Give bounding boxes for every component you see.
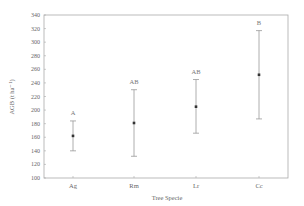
y-tick-label: 180	[31, 121, 40, 127]
x-tick-label: Rm	[129, 182, 138, 189]
plot-border	[44, 15, 288, 178]
y-tick-label: 260	[31, 66, 40, 72]
data-point-group: AB	[191, 68, 201, 134]
x-axis-title: Tree Specie	[152, 194, 183, 201]
significance-label: AB	[129, 78, 139, 85]
chart: 100120140160180200220240260280300320340 …	[0, 0, 304, 206]
data-point-group: A	[70, 109, 76, 151]
mean-marker	[258, 73, 261, 76]
y-tick-label: 340	[31, 12, 40, 18]
y-axis-title: AGB (t ha⁻¹)	[8, 79, 16, 114]
mean-marker	[72, 135, 75, 138]
y-tick-label: 100	[31, 175, 40, 181]
data-point-group: B	[256, 19, 262, 119]
data-point-group: AB	[129, 78, 139, 157]
mean-marker	[133, 122, 136, 125]
plot-frame	[44, 15, 288, 178]
significance-label: B	[257, 19, 262, 26]
y-tick-label: 320	[31, 26, 40, 32]
y-tick-label: 220	[31, 94, 40, 100]
y-tick-label: 200	[31, 107, 40, 113]
mean-marker	[195, 105, 198, 108]
y-tick-label: 120	[31, 161, 40, 167]
x-tick-label: Cc	[255, 182, 262, 189]
y-tick-label: 140	[31, 148, 40, 154]
data-series: AABABB	[70, 19, 262, 157]
y-tick-label: 240	[31, 80, 40, 86]
x-tick-label: Ag	[69, 182, 78, 189]
significance-label: AB	[191, 68, 201, 75]
y-tick-label: 280	[31, 53, 40, 59]
y-tick-label: 300	[31, 39, 40, 45]
significance-label: A	[71, 109, 76, 116]
x-tick-label: Lr	[193, 182, 200, 189]
y-tick-label: 160	[31, 134, 40, 140]
